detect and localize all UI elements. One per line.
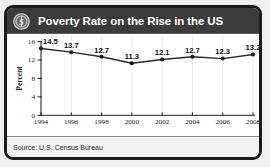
source-footer: Source: U.S. Census Bureau [7,136,259,157]
svg-text:8: 8 [31,75,35,83]
svg-text:2008: 2008 [246,118,259,126]
svg-text:13.7: 13.7 [64,41,79,50]
svg-text:13.2: 13.2 [246,43,259,52]
svg-text:1994: 1994 [34,118,49,126]
dollar-circle-icon: S [13,13,30,30]
chart-header: S Poverty Rate on the Rise in the US [7,8,259,34]
svg-text:12: 12 [28,57,36,65]
source-text: Source: U.S. Census Bureau [13,144,103,151]
svg-text:14.5: 14.5 [43,37,58,46]
svg-text:1996: 1996 [64,118,79,126]
page-title: Poverty Rate on the Rise in the US [38,15,223,27]
svg-text:4: 4 [31,93,35,101]
svg-text:2000: 2000 [125,118,140,126]
svg-text:12.7: 12.7 [94,46,109,55]
svg-text:11.3: 11.3 [125,52,139,61]
svg-text:12.3: 12.3 [215,48,230,57]
y-axis-label: Percent [15,66,24,91]
svg-text:2004: 2004 [185,118,200,126]
svg-text:12.7: 12.7 [185,46,200,55]
svg-text:2002: 2002 [155,118,170,126]
svg-text:1998: 1998 [94,118,109,126]
svg-text:16: 16 [28,38,36,46]
infographic-card: S Poverty Rate on the Rise in the US 048… [4,5,262,160]
svg-text:12.1: 12.1 [155,48,170,57]
chart-plot-area: 048121619941996199820002002200420062008 … [7,34,259,137]
line-chart: 048121619941996199820002002200420062008 … [7,34,259,137]
svg-text:2006: 2006 [216,118,231,126]
